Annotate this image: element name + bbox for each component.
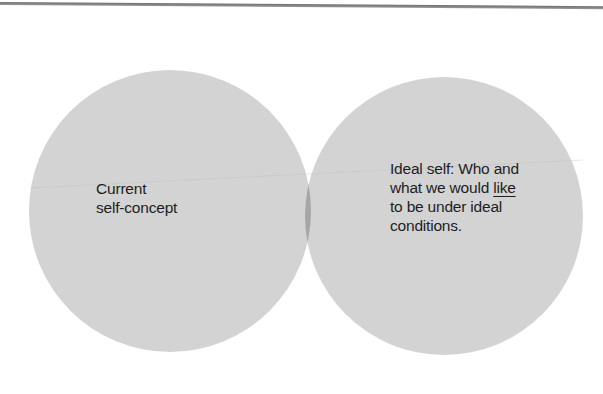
underlined-word: like (493, 179, 515, 196)
label-line: self-concept (96, 198, 177, 217)
label-line: what we would like (390, 178, 519, 197)
current-self-concept-label: Current self-concept (96, 179, 177, 217)
ideal-self-label: Ideal self: Who and what we would like t… (390, 159, 519, 235)
label-line: Current (96, 179, 177, 198)
label-line: Ideal self: Who and (390, 159, 519, 178)
label-line: to be under ideal (390, 197, 519, 216)
label-text: what we would (390, 179, 493, 196)
label-line: conditions. (390, 216, 519, 235)
